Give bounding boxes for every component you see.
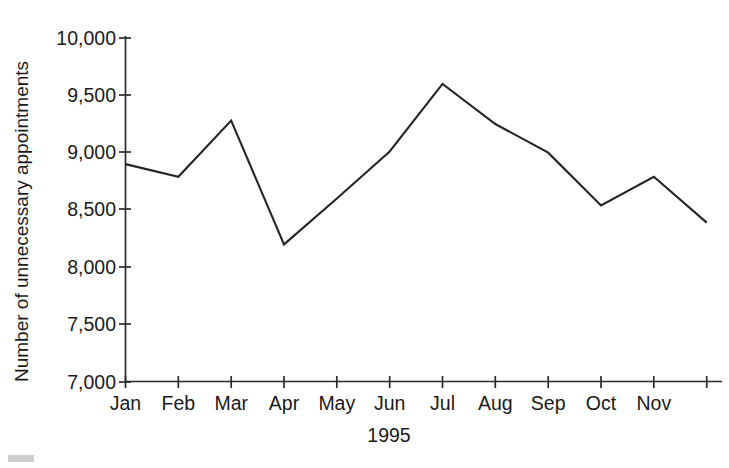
y-tick-label: 8,500: [67, 198, 116, 220]
line-chart-figure: Number of unnecessary appointments 10,00…: [0, 0, 729, 468]
x-tick-label-may: May: [318, 392, 355, 414]
x-tick-label-oct: Oct: [586, 392, 617, 414]
x-axis-title: 1995: [367, 424, 411, 446]
y-tick-label: 9,500: [67, 84, 116, 106]
y-tick-label: 7,500: [67, 313, 116, 335]
corner-registration-mark: [8, 455, 34, 462]
x-axis-tick-labels: Jan Feb Mar Apr May Jun Jul Aug Sep Oct …: [110, 392, 672, 414]
x-tick-label-feb: Feb: [161, 392, 195, 414]
x-tick-label-sep: Sep: [531, 392, 566, 414]
x-tick-label-jan: Jan: [110, 392, 141, 414]
x-tick-label-nov: Nov: [636, 392, 671, 414]
y-tick-label: 9,000: [67, 141, 116, 163]
y-axis-title: Number of unnecessary appointments: [11, 61, 32, 382]
y-tick-label: 7,000: [67, 371, 116, 393]
chart-canvas: Number of unnecessary appointments 10,00…: [0, 0, 729, 468]
y-tick-label: 10,000: [56, 27, 116, 49]
x-tick-label-mar: Mar: [214, 392, 248, 414]
x-tick-label-jul: Jul: [430, 392, 455, 414]
y-tick-label: 8,000: [67, 256, 116, 278]
x-tick-label-jun: Jun: [374, 392, 405, 414]
x-tick-label-aug: Aug: [478, 392, 513, 414]
x-tick-label-apr: Apr: [269, 392, 300, 414]
